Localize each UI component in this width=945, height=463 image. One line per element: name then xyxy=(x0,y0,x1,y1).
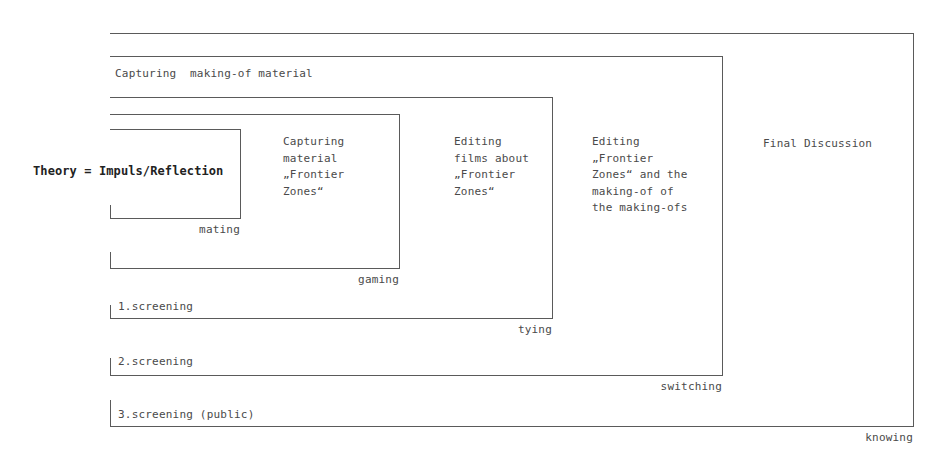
screening-3-label: 3.screening (public) xyxy=(118,407,254,424)
mating-box-bottom xyxy=(110,218,241,219)
gaming-box-top xyxy=(110,114,400,115)
screening-1-label: 1.screening xyxy=(118,299,193,316)
switching-box-top xyxy=(110,56,723,57)
tying-box-left-stub xyxy=(110,305,111,319)
knowing-box-right xyxy=(913,33,914,427)
switching-box-right xyxy=(722,56,723,376)
gaming-box-bottom xyxy=(110,268,400,269)
screening-2-label: 2.screening xyxy=(118,354,193,371)
switching-box-bottom xyxy=(110,375,723,376)
mating-box-left-stub xyxy=(110,205,111,219)
tying-corner-label: tying xyxy=(518,322,552,339)
tying-stage-text: Editing films about „Frontier Zones“ xyxy=(454,134,529,200)
switching-stage-text: Editing „Frontier Zones“ and the making-… xyxy=(592,134,688,217)
switching-corner-label: switching xyxy=(661,379,722,396)
gaming-corner-label: gaming xyxy=(358,272,399,289)
gaming-box-left-stub xyxy=(110,252,111,269)
mating-corner-label: mating xyxy=(199,222,240,239)
tying-box-top xyxy=(110,97,553,98)
knowing-box-left-stub xyxy=(110,400,111,427)
top-label: Capturing making-of material xyxy=(115,66,313,83)
tying-box-right xyxy=(552,97,553,319)
theory-label: Theory = Impuls/Reflection xyxy=(33,164,223,178)
tying-box-bottom xyxy=(110,318,553,319)
switching-box-left-stub xyxy=(110,358,111,376)
gaming-box-right xyxy=(399,114,400,269)
knowing-box-top xyxy=(110,33,914,34)
gaming-stage-text: Capturing material „Frontier Zones“ xyxy=(283,134,344,200)
mating-box-top xyxy=(110,129,241,130)
mating-box-right xyxy=(240,129,241,219)
knowing-box-bottom xyxy=(110,426,914,427)
knowing-stage-text: Final Discussion xyxy=(763,136,872,153)
knowing-corner-label: knowing xyxy=(865,430,913,447)
